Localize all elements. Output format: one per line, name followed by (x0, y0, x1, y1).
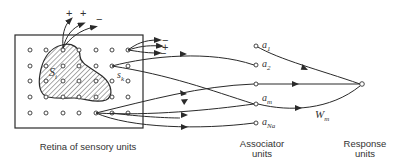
label-am: am (262, 93, 272, 107)
retina-caption: Retina of sensory units (33, 142, 143, 152)
label-a1: a1 (262, 40, 271, 54)
associator-unit-aNa (254, 121, 258, 125)
connection (96, 84, 254, 113)
label-s-k: sk (117, 70, 124, 84)
connection (96, 113, 254, 127)
response-caption: Responseunits (340, 139, 390, 159)
connection (96, 104, 254, 114)
associator-unit-a2 (254, 63, 258, 67)
sign-minus: − (96, 14, 102, 24)
associator-unit-a1 (254, 44, 258, 48)
sign-plus: + (80, 8, 86, 18)
connection (256, 46, 360, 84)
label-aNa: aNa (262, 117, 275, 131)
connection (258, 86, 360, 108)
associator-unit (254, 82, 258, 86)
label-w-m: Wm (315, 109, 329, 124)
sign-minus: − (160, 48, 166, 58)
associator-unit-am (254, 102, 258, 106)
connection (112, 56, 254, 66)
label-a2: a2 (262, 59, 271, 73)
sign-plus: + (66, 8, 72, 18)
response-unit (360, 82, 365, 87)
associator-caption: Associatorunits (232, 139, 292, 159)
label-s-i: Si (49, 67, 57, 82)
